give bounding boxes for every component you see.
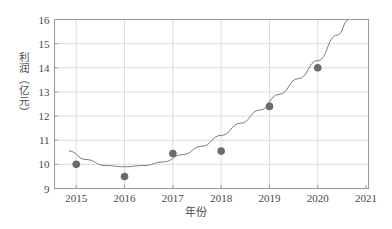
regression-curve: [69, 20, 349, 167]
data-point-2018: [217, 147, 225, 155]
x-tick-label-2016: 2016: [114, 192, 137, 204]
x-axis-tick-labels: 2015201620172018201920202021: [65, 192, 377, 204]
horizontal-gridlines: [55, 20, 369, 165]
y-tick-label-12: 12: [39, 110, 50, 122]
data-point-2016: [121, 173, 129, 181]
data-point-2015: [72, 161, 80, 169]
data-point-2019: [266, 103, 274, 111]
axes-frame: [55, 20, 369, 189]
y-tick-label-10: 10: [39, 158, 51, 170]
scatter-plot-svg: 910111213141516 201520162017201820192020…: [0, 0, 392, 229]
x-tick-label-2020: 2020: [307, 192, 330, 204]
y-axis-tick-labels: 910111213141516: [39, 14, 51, 195]
data-point-2017: [169, 150, 177, 158]
x-axis-title: 年份: [0, 203, 392, 219]
y-tick-label-11: 11: [39, 134, 50, 146]
x-tick-label-2018: 2018: [210, 192, 233, 204]
vertical-gridlines: [76, 20, 318, 189]
x-tick-label-2019: 2019: [258, 192, 281, 204]
data-points: [72, 64, 321, 180]
chart-container: 910111213141516 201520162017201820192020…: [0, 0, 392, 229]
y-tick-label-13: 13: [39, 86, 51, 98]
x-axis-tick-marks: [76, 185, 366, 189]
data-point-2020: [314, 64, 322, 72]
x-tick-label-2017: 2017: [162, 192, 185, 204]
y-tick-label-9: 9: [44, 183, 50, 195]
y-tick-label-16: 16: [39, 14, 51, 26]
y-tick-label-15: 15: [39, 38, 51, 50]
plot-frame: [55, 20, 369, 189]
x-tick-label-2021: 2021: [355, 192, 377, 204]
y-tick-label-14: 14: [39, 62, 51, 74]
y-axis-tick-marks: [55, 20, 59, 189]
x-tick-label-2015: 2015: [65, 192, 88, 204]
y-axis-title: 利润（亿元）: [6, 52, 28, 118]
fitted-curve: [69, 20, 349, 167]
